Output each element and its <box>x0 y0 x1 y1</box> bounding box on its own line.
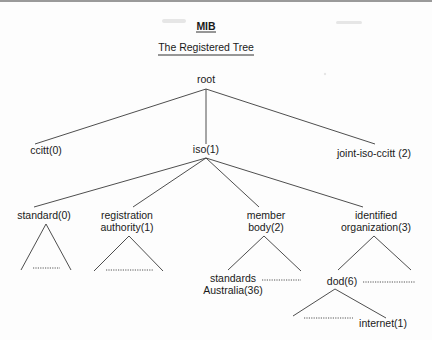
tree-edge <box>264 236 301 271</box>
diagram-title: MIB <box>196 20 216 32</box>
tree-edge <box>374 236 411 270</box>
node-label-member: member <box>247 209 286 221</box>
tree-edge <box>21 224 46 270</box>
tree-edge <box>35 89 206 144</box>
node-label-standards-australia: Australia(36) <box>203 284 263 296</box>
node-label-registration: registration <box>101 209 153 221</box>
tree-edge <box>335 289 386 318</box>
tree-edge <box>129 236 163 271</box>
node-label-standards-australia: standards <box>210 272 256 284</box>
tree-edge <box>293 289 335 316</box>
tree-nodes: rootccitt(0)iso(1)joint-iso-ccitt (2)sta… <box>17 73 411 329</box>
node-label-dod: dod(6) <box>327 275 357 287</box>
tree-edge <box>338 236 374 270</box>
node-label-iso: iso(1) <box>193 143 219 155</box>
scan-speck <box>324 73 326 75</box>
node-label-member: body(2) <box>248 221 284 233</box>
node-label-identified: identified <box>355 209 397 221</box>
tree-edge <box>94 236 129 271</box>
node-label-standard: standard(0) <box>17 209 71 221</box>
node-label-root: root <box>197 73 215 85</box>
tree-edge <box>34 158 206 207</box>
tree-edge <box>46 224 71 270</box>
registered-tree-diagram: MIB The Registered Tree rootccitt(0)iso(… <box>0 0 432 340</box>
tree-edge <box>206 158 363 207</box>
node-label-ccitt: ccitt(0) <box>30 144 62 156</box>
node-label-joint: joint-iso-ccitt (2) <box>336 147 411 159</box>
tree-edge <box>206 89 375 144</box>
node-label-internet: internet(1) <box>359 317 407 329</box>
tree-edge <box>133 158 206 207</box>
scan-smudge <box>162 19 186 23</box>
tree-edge <box>228 236 264 270</box>
node-label-registration: authority(1) <box>100 221 153 233</box>
scan-smudge <box>336 21 362 24</box>
tree-edge <box>206 158 259 207</box>
node-label-identified: organization(3) <box>341 221 411 233</box>
diagram-subtitle: The Registered Tree <box>158 41 254 53</box>
diagram-page: MIB The Registered Tree rootccitt(0)iso(… <box>0 0 432 340</box>
